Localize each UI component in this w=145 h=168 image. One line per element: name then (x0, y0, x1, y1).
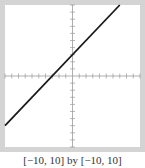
graph-plot (0, 0, 145, 152)
graph-line (5, 5, 120, 126)
window-range-caption: [−10, 10] by [−10, 10] (0, 153, 145, 167)
